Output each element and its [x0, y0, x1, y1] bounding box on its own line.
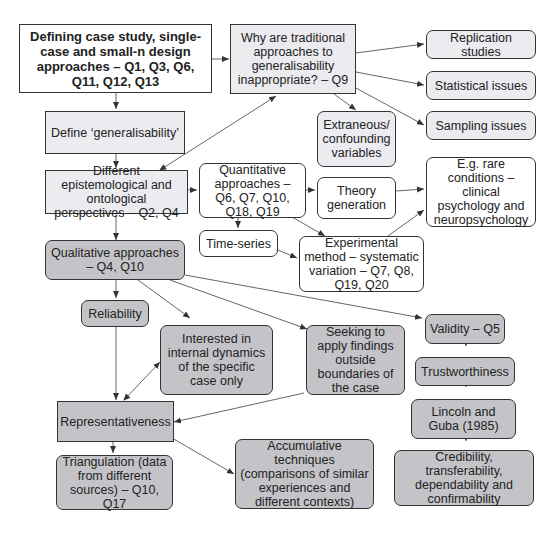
node-validity: Validity – Q5 — [425, 314, 505, 344]
node-label: Interested in internal dynamics of the s… — [165, 332, 268, 388]
node-label: Theory generation — [322, 184, 391, 212]
node-label: Statistical issues — [435, 79, 527, 93]
node-label: Triangulation (data from different sourc… — [61, 455, 168, 511]
node-quantitative-approaches: Quantitative approaches – Q6, Q7, Q10, Q… — [199, 163, 306, 218]
node-epistemological-perspectives: Different epistemological and ontologica… — [45, 170, 188, 214]
node-accumulative-techniques: Accumulative techniques (comparisons of … — [235, 439, 374, 509]
node-label: Reliability — [88, 307, 142, 321]
node-label: Why are traditional approaches to genera… — [235, 31, 351, 87]
node-label: Trustworthiness — [421, 365, 509, 379]
node-label: E.g. rare conditions – clinical psycholo… — [431, 157, 531, 227]
node-lincoln-and-guba: Lincoln and Guba (1985) — [411, 399, 516, 439]
node-interested-internal-dynamics: Interested in internal dynamics of the s… — [160, 325, 273, 395]
node-experimental-method: Experimental method – systematic variati… — [299, 236, 424, 292]
node-defining-approaches: Defining case study, single-case and sma… — [19, 24, 212, 93]
node-label: Define ‘generalisability’ — [51, 126, 179, 140]
node-sampling-issues: Sampling issues — [426, 111, 536, 140]
node-trustworthiness: Trustworthiness — [415, 357, 515, 386]
node-statistical-issues: Statistical issues — [426, 71, 536, 100]
node-time-series: Time-series — [199, 230, 278, 257]
node-rare-conditions: E.g. rare conditions – clinical psycholo… — [426, 157, 536, 227]
node-label: Qualitative approaches – Q4, Q10 — [50, 246, 180, 274]
node-label: Sampling issues — [435, 119, 526, 133]
node-label: Seeking to apply findings outside bounda… — [311, 325, 400, 395]
node-qualitative-approaches: Qualitative approaches – Q4, Q10 — [45, 240, 185, 280]
node-define-generalisability: Define ‘generalisability’ — [45, 111, 185, 154]
node-label: Representativeness — [60, 415, 170, 429]
concept-map: Defining case study, single-case and sma… — [0, 0, 558, 535]
node-seeking-to-apply-findings: Seeking to apply findings outside bounda… — [306, 325, 405, 395]
node-label: Lincoln and Guba (1985) — [416, 405, 511, 433]
node-extraneous-variables: Extraneous/ confounding variables — [317, 111, 396, 167]
node-label: Time-series — [206, 237, 271, 251]
node-credibility-transferability: Credibility, transferability, dependabil… — [394, 450, 534, 506]
node-label: Validity – Q5 — [430, 322, 500, 336]
node-why-traditional: Why are traditional approaches to genera… — [230, 24, 356, 94]
node-label: Different epistemological and ontologica… — [50, 164, 183, 220]
node-label: Quantitative approaches – Q6, Q7, Q10, Q… — [204, 163, 301, 219]
node-label: Experimental method – systematic variati… — [304, 236, 419, 292]
node-label: Extraneous/ confounding variables — [322, 118, 391, 160]
node-theory-generation: Theory generation — [317, 177, 396, 219]
node-label: Credibility, transferability, dependabil… — [399, 450, 529, 506]
node-replication-studies: Replication studies — [426, 30, 536, 59]
node-triangulation: Triangulation (data from different sourc… — [56, 455, 173, 510]
node-reliability: Reliability — [81, 300, 149, 327]
node-label: Defining case study, single-case and sma… — [24, 29, 207, 89]
node-label: Accumulative techniques (comparisons of … — [240, 439, 369, 509]
node-representativeness: Representativeness — [57, 401, 174, 442]
node-label: Replication studies — [431, 31, 531, 59]
